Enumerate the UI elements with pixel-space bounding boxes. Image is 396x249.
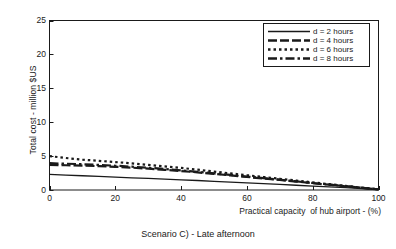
x-tick-label: 80: [293, 194, 333, 203]
legend-label: d = 8 hours: [311, 54, 353, 63]
legend-label: d = 6 hours: [311, 45, 353, 54]
x-axis-title: Practical capacity of hub airport - (%): [0, 206, 381, 216]
x-tick-label: 0: [30, 194, 70, 203]
chart-figure: Total cost - million $US 0510152025 0204…: [0, 0, 396, 249]
legend-line-sample: [267, 36, 311, 45]
legend-label: d = 4 hours: [311, 36, 353, 45]
legend-item-4[interactable]: d = 8 hours: [267, 54, 365, 63]
legend-label: d = 2 hours: [311, 27, 353, 36]
legend-line-sample: [267, 54, 311, 63]
legend-line-sample: [267, 27, 311, 36]
legend-item-2[interactable]: d = 4 hours: [267, 36, 365, 45]
chart-legend: d = 2 hoursd = 4 hoursd = 6 hoursd = 8 h…: [263, 23, 370, 67]
x-tick-label: 40: [161, 194, 201, 203]
figure-caption: Scenario C) - Late afternoon: [0, 229, 396, 239]
x-tick-label: 60: [227, 194, 267, 203]
legend-item-1[interactable]: d = 2 hours: [267, 27, 365, 36]
x-tick-label: 100: [359, 194, 396, 203]
legend-item-3[interactable]: d = 6 hours: [267, 45, 365, 54]
x-tick-label: 20: [95, 194, 135, 203]
legend-line-sample: [267, 45, 311, 54]
